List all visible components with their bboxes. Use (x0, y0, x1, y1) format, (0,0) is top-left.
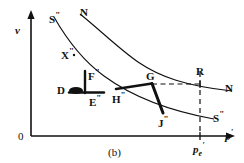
point-label-d: D (57, 85, 65, 96)
x-tick-label-sub: e (199, 149, 203, 158)
point-label-j: J" (158, 115, 168, 129)
x-tick-label-prime: ' (202, 140, 204, 150)
x-tick-label-pe: pe' (193, 141, 204, 158)
process-segment-h-to-g (116, 84, 152, 90)
point-label-h: H" (112, 91, 125, 105)
point-label-e-prime: " (96, 93, 101, 103)
origin-label: 0 (18, 131, 24, 142)
y-axis-label: v (15, 25, 20, 36)
point-label-j-prime: " (164, 114, 169, 124)
x-axis-label: p' (225, 128, 233, 142)
point-label-h-text: H (112, 93, 121, 105)
point-label-f-prime: " (95, 67, 100, 77)
x-axis-label-prime: ' (231, 127, 233, 137)
curve-n-n (80, 14, 232, 91)
y-axis-arrowhead (27, 10, 34, 19)
point-label-x-text: X (61, 49, 69, 61)
process-segment-g-to-j (152, 84, 163, 114)
point-label-f-text: F (88, 70, 95, 82)
cluster-blob-marker (69, 87, 83, 94)
curve-label-s-upper-left: S" (49, 11, 60, 25)
point-label-x-prime: " (69, 46, 74, 56)
point-label-e: E" (89, 94, 101, 108)
figure-caption: (b) (108, 146, 121, 158)
point-label-r: R (196, 66, 204, 77)
point-label-g: G (146, 71, 155, 82)
curve-label-n-right: N (225, 83, 233, 94)
curve-label-n-upper-left: N (80, 7, 88, 18)
curve-s-s (54, 17, 214, 119)
point-label-h-prime: " (121, 90, 126, 100)
curve-label-s-upper-left-prime: " (55, 10, 60, 20)
point-label-x: X" (61, 47, 73, 61)
figure-container: v 0 p' pe' S" N N S" X" D F" E" H" G R J… (0, 0, 244, 163)
curve-label-s-lower-right-prime: " (219, 109, 224, 119)
curve-label-s-lower-right: S" (213, 110, 224, 124)
figure-drawing (0, 0, 244, 163)
point-label-f: F" (88, 68, 99, 82)
